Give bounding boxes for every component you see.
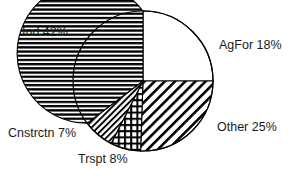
pie-label-agfor: AgFor 18%	[219, 38, 282, 52]
pie-label-cnstrctn: Cnstrctn 7%	[8, 126, 76, 140]
pie-chart-figure: AgFor 18% Ind 42% Other 25% Cnstrctn 7% …	[0, 0, 296, 178]
pie-label-trspt: Trspt 8%	[78, 152, 128, 166]
pie-slice-agfor[interactable]	[143, 11, 213, 81]
pie-slice-other[interactable]	[141, 81, 213, 151]
pie-label-other: Other 25%	[217, 120, 277, 134]
pie-label-ind: Ind 42%	[22, 25, 68, 39]
